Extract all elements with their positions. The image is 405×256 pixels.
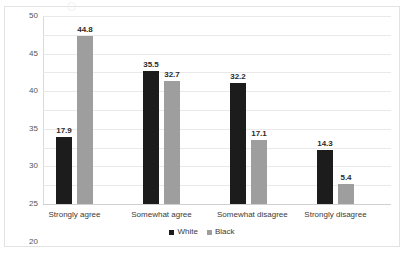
y-axis-tick-label: 30 [29, 162, 38, 170]
bar-value-label: 32.7 [164, 71, 180, 79]
y-axis-tick-label: 25 [29, 200, 38, 208]
bar-chart-figure: 5045403530252015105017.944.8Strongly agr… [4, 6, 400, 247]
category-label: Somewhat agree [130, 211, 193, 219]
bar-black[interactable]: 17.1 [251, 140, 267, 204]
axis-baseline: 0 [43, 204, 391, 205]
y-axis-tick-label: 40 [29, 87, 38, 95]
legend-swatch-icon [207, 230, 212, 235]
bar-value-label: 5.4 [340, 174, 351, 182]
bar-value-label: 17.9 [56, 127, 72, 135]
bar-group: 35.532.7Somewhat agree [130, 16, 217, 204]
bar-value-label: 14.3 [317, 140, 333, 148]
bar-value-label: 35.5 [143, 61, 159, 69]
bar-black[interactable]: 44.8 [77, 36, 93, 204]
bar-group: 14.35.4Strongly disagree [304, 16, 391, 204]
y-axis-tick-label: 35 [29, 125, 38, 133]
bar-white[interactable]: 35.5 [143, 71, 159, 204]
bar-black[interactable]: 32.7 [164, 81, 180, 204]
legend-item-white[interactable]: White [169, 228, 197, 236]
bar-white[interactable]: 17.9 [56, 137, 72, 204]
bar-group: 17.944.8Strongly agree [43, 16, 130, 204]
y-axis-tick-label: 20 [29, 238, 38, 246]
y-axis-tick-label: 50 [29, 12, 38, 20]
plot-area: 5045403530252015105017.944.8Strongly agr… [43, 16, 391, 204]
legend-label: White [177, 228, 197, 236]
bar-value-label: 32.2 [230, 73, 246, 81]
bar-white[interactable]: 32.2 [230, 83, 246, 204]
category-label: Strongly disagree [304, 211, 367, 219]
legend-label: Black [215, 228, 235, 236]
y-axis-tick-label: 45 [29, 50, 38, 58]
bar-value-label: 17.1 [251, 130, 267, 138]
category-label: Somewhat disagree [217, 211, 280, 219]
bar-black[interactable]: 5.4 [338, 184, 354, 204]
bar-group: 32.217.1Somewhat disagree [217, 16, 304, 204]
category-label: Strongly agree [43, 211, 106, 219]
chart-legend: WhiteBlack [5, 228, 399, 236]
legend-swatch-icon [169, 230, 174, 235]
bar-value-label: 44.8 [77, 26, 93, 34]
legend-item-black[interactable]: Black [207, 228, 235, 236]
bar-white[interactable]: 14.3 [317, 150, 333, 204]
scan-artifact [67, 2, 76, 11]
